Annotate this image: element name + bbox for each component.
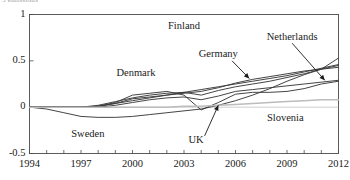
- annotation-arrow-germany: [232, 61, 249, 79]
- x-tick-label-2000: 2000: [122, 159, 143, 170]
- series-label-denmark: Denmark: [116, 68, 155, 79]
- series-label-finland: Finland: [168, 21, 200, 32]
- x-tick-label-2006: 2006: [225, 159, 246, 170]
- series-label-germany: Germany: [199, 49, 238, 60]
- series-line-slovenia: [30, 100, 339, 107]
- y-tick-label-0: 0: [20, 101, 25, 112]
- y-tick-label-0.5: 0.5: [12, 55, 25, 66]
- annotation-arrow-uk: [205, 105, 219, 136]
- x-tick-label-2009: 2009: [277, 159, 298, 170]
- y-tick-label--0.5: -0.5: [9, 148, 26, 159]
- x-tick-label-2003: 2003: [174, 159, 195, 170]
- chart-figure: 5 emissions -0.500.511994199720002003200…: [0, 0, 350, 180]
- x-tick-label-1997: 1997: [71, 159, 92, 170]
- series-line-denmark: [30, 58, 339, 107]
- annotation-arrow-netherlands: [292, 43, 325, 80]
- x-tick-label-1994: 1994: [19, 159, 40, 170]
- series-label-slovenia: Slovenia: [267, 113, 304, 124]
- y-tick-label-1: 1: [20, 9, 25, 20]
- series-label-sweden: Sweden: [71, 129, 104, 140]
- series-label-uk: UK: [188, 135, 203, 146]
- series-label-netherlands: Netherlands: [267, 32, 318, 43]
- x-tick-label-2012: 2012: [328, 159, 349, 170]
